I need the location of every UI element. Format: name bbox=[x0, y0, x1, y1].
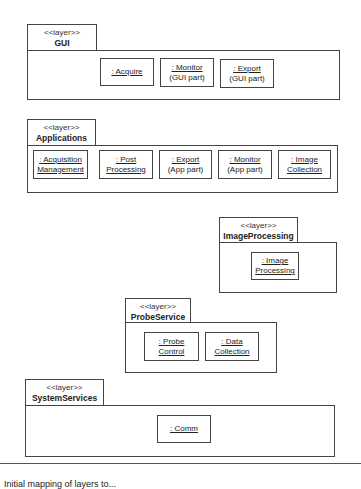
part-export-app: : Export (App part) bbox=[159, 150, 212, 179]
part-name: : Monitor bbox=[229, 155, 260, 165]
part-name: : Acquire bbox=[111, 67, 142, 77]
part-comm: : Comm bbox=[157, 415, 211, 443]
caption-divider bbox=[0, 463, 361, 464]
part-image-collection: : Image Collection bbox=[278, 150, 331, 179]
part-name-cont: Collection bbox=[214, 347, 249, 357]
part-probe-control: : Probe Control bbox=[144, 332, 199, 361]
stereotype-label: <<layer>> bbox=[126, 302, 190, 312]
figure-caption: Initial mapping of layers to... bbox=[4, 479, 116, 489]
part-name: : Post bbox=[116, 155, 136, 165]
part-monitor-gui: : Monitor (GUI part) bbox=[160, 58, 214, 87]
part-name: : Export bbox=[233, 64, 261, 74]
layer-name: GUI bbox=[28, 38, 96, 48]
part-name: : Probe bbox=[159, 337, 185, 347]
part-name: : Acquisition bbox=[39, 155, 82, 165]
layer-systemservices-tab: <<layer>> SystemServices bbox=[25, 379, 104, 406]
stereotype-label: <<layer>> bbox=[26, 383, 103, 393]
part-name-cont: Control bbox=[159, 347, 185, 357]
layer-name: SystemServices bbox=[26, 393, 103, 403]
layer-name: ImageProcessing bbox=[220, 231, 297, 241]
stereotype-label: <<layer>> bbox=[28, 123, 95, 133]
part-name: : Data bbox=[221, 337, 242, 347]
layer-gui-tab: <<layer>> GUI bbox=[27, 24, 97, 51]
part-name: : Export bbox=[172, 155, 200, 165]
part-name-cont: Processing bbox=[106, 165, 146, 175]
part-name-cont: Processing bbox=[255, 266, 295, 276]
layer-name: ProbeService bbox=[126, 312, 190, 322]
part-name-cont: Collection bbox=[287, 165, 322, 175]
part-acquisition-management: : Acquisition Management bbox=[33, 150, 88, 179]
part-acquire: : Acquire bbox=[100, 58, 154, 86]
stereotype-label: <<layer>> bbox=[220, 221, 297, 231]
part-post-processing: : Post Processing bbox=[99, 150, 153, 179]
part-export-gui: : Export (GUI part) bbox=[220, 59, 274, 88]
layer-name: Applications bbox=[28, 133, 95, 143]
part-name: : Image bbox=[291, 155, 318, 165]
layer-applications-tab: <<layer>> Applications bbox=[27, 119, 96, 146]
part-qualifier: (GUI part) bbox=[229, 74, 265, 84]
part-name: : Image bbox=[262, 256, 289, 266]
part-image-processing: : Image Processing bbox=[251, 252, 299, 280]
part-qualifier: (App part) bbox=[168, 165, 204, 175]
part-name: : Comm bbox=[170, 424, 198, 434]
layer-probeservice-tab: <<layer>> ProbeService bbox=[125, 298, 191, 323]
layer-imageprocessing-tab: <<layer>> ImageProcessing bbox=[219, 217, 298, 243]
part-qualifier: (App part) bbox=[227, 165, 263, 175]
part-monitor-app: : Monitor (App part) bbox=[218, 150, 272, 179]
part-name: : Monitor bbox=[171, 63, 202, 73]
part-qualifier: (GUI part) bbox=[169, 73, 205, 83]
part-name-cont: Management bbox=[37, 165, 84, 175]
part-data-collection: : Data Collection bbox=[205, 332, 259, 361]
stereotype-label: <<layer>> bbox=[28, 28, 96, 38]
